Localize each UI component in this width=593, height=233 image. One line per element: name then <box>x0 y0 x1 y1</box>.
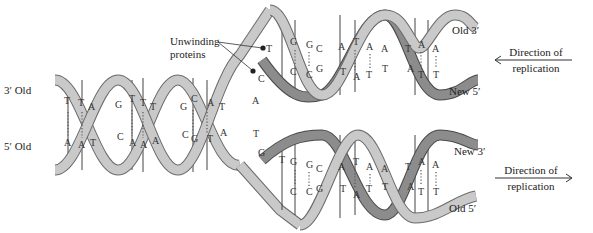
svg-text:G: G <box>115 99 122 110</box>
svg-text:A: A <box>78 139 86 150</box>
svg-text:A: A <box>407 181 415 192</box>
svg-text:C: C <box>316 43 323 54</box>
svg-text:T: T <box>433 69 439 80</box>
svg-text:A: A <box>407 63 415 74</box>
direction-upper-line1: Direction of <box>503 47 569 58</box>
svg-text:T: T <box>90 137 96 148</box>
svg-text:C: C <box>191 93 198 104</box>
svg-text:C: C <box>258 73 265 84</box>
svg-text:C: C <box>182 129 189 140</box>
svg-text:C: C <box>316 163 323 174</box>
unwinding-label-line1: Unwinding <box>170 36 220 47</box>
svg-text:A: A <box>140 139 148 150</box>
svg-text:G: G <box>258 147 265 158</box>
svg-text:G: G <box>191 133 198 144</box>
svg-text:A: A <box>64 137 72 148</box>
svg-text:T: T <box>433 186 439 197</box>
svg-text:A: A <box>418 39 426 50</box>
svg-text:T: T <box>150 101 156 112</box>
svg-text:C: C <box>306 186 313 197</box>
svg-text:T: T <box>418 69 424 80</box>
svg-text:T: T <box>129 93 135 104</box>
svg-text:A: A <box>418 156 426 167</box>
svg-text:T: T <box>279 154 285 165</box>
svg-text:T: T <box>266 43 272 54</box>
svg-text:C: C <box>306 69 313 80</box>
svg-text:G: G <box>180 101 187 112</box>
svg-text:G: G <box>316 183 323 194</box>
helix-artwork: .old{fill:none;stroke:#c9c9c9;stroke-wid… <box>0 0 593 233</box>
svg-text:A: A <box>88 101 96 112</box>
svg-text:T: T <box>418 186 424 197</box>
svg-text:A: A <box>366 41 374 52</box>
protein-dot-icon <box>250 68 255 73</box>
svg-text:T: T <box>366 69 372 80</box>
svg-text:A: A <box>220 127 228 138</box>
svg-text:A: A <box>432 43 440 54</box>
svg-text:A: A <box>252 95 260 106</box>
lower-right-top-label: New 3′ <box>454 146 485 157</box>
svg-text:G: G <box>290 36 297 47</box>
lower-right-bottom-label: Old 5′ <box>449 203 476 214</box>
svg-text:T: T <box>219 101 225 112</box>
svg-text:T: T <box>405 43 411 54</box>
svg-text:A: A <box>152 135 160 146</box>
svg-text:T: T <box>78 97 84 108</box>
svg-text:T: T <box>382 63 388 74</box>
svg-text:T: T <box>382 181 388 192</box>
svg-text:T: T <box>353 36 359 47</box>
svg-text:A: A <box>381 163 389 174</box>
svg-text:A: A <box>353 189 361 200</box>
svg-text:T: T <box>340 183 346 194</box>
svg-text:T: T <box>366 183 372 194</box>
upper-right-top-label: Old 3′ <box>452 25 479 36</box>
svg-text:C: C <box>290 186 297 197</box>
svg-text:G: G <box>306 159 313 170</box>
svg-text:T: T <box>64 95 70 106</box>
upper-right-bottom-label: New 5′ <box>449 86 480 97</box>
svg-text:A: A <box>338 161 346 172</box>
direction-upper-line2: replication <box>503 63 569 74</box>
svg-text:C: C <box>290 66 297 77</box>
direction-lower-line2: replication <box>498 181 564 192</box>
svg-text:G: G <box>290 156 297 167</box>
svg-text:T: T <box>405 161 411 172</box>
svg-text:A: A <box>381 43 389 54</box>
svg-text:T: T <box>253 128 259 139</box>
svg-text:T: T <box>353 156 359 167</box>
svg-text:T: T <box>340 66 346 77</box>
dna-replication-diagram: .old{fill:none;stroke:#c9c9c9;stroke-wid… <box>0 0 593 233</box>
svg-text:A: A <box>353 71 361 82</box>
svg-text:G: G <box>306 39 313 50</box>
svg-text:A: A <box>129 137 137 148</box>
left-bottom-label: 5′ Old <box>4 141 31 152</box>
protein-dot-icon <box>260 45 265 50</box>
svg-text:A: A <box>338 41 346 52</box>
svg-text:G: G <box>316 63 323 74</box>
left-top-label: 3′ Old <box>4 85 31 96</box>
svg-text:T: T <box>140 97 146 108</box>
svg-text:A: A <box>432 159 440 170</box>
svg-text:A: A <box>207 97 215 108</box>
svg-text:A: A <box>366 161 374 172</box>
svg-text:T: T <box>207 133 213 144</box>
unwinding-label-line2: proteins <box>170 49 205 60</box>
svg-text:C: C <box>117 131 124 142</box>
direction-lower-line1: Direction of <box>498 165 564 176</box>
